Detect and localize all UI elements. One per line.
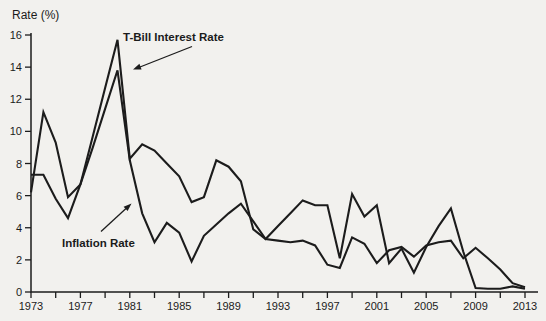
y-tick-label: 0 (16, 286, 22, 298)
x-tick-label: 1989 (216, 300, 240, 312)
tbill-annotation-label: T-Bill Interest Rate (123, 31, 224, 43)
data-series (31, 40, 525, 289)
tbill-annotation: T-Bill Interest Rate (123, 31, 224, 70)
tbill-inflation-line-chart: Rate (%) 0246810121416 19731977198119851… (0, 0, 546, 321)
y-axis-title: Rate (%) (12, 8, 59, 22)
axis-lines (31, 33, 538, 292)
t-bill-rate-line (31, 40, 525, 289)
tbill-annotation-arrowhead-icon (133, 64, 142, 70)
y-axis-tick-labels: 0246810121416 (10, 29, 22, 298)
x-tick-label: 1977 (68, 300, 92, 312)
y-tick-label: 10 (10, 125, 22, 137)
y-tick-label: 8 (16, 158, 22, 170)
y-tick-label: 6 (16, 190, 22, 202)
axes: 0246810121416 19731977198119851989199319… (10, 29, 538, 312)
inflation-rate-line (31, 70, 525, 287)
x-axis-ticks (31, 292, 525, 298)
x-tick-label: 1981 (118, 300, 142, 312)
tbill-annotation-arrow-line (140, 47, 192, 68)
x-tick-label: 2005 (414, 300, 438, 312)
x-tick-label: 2001 (365, 300, 389, 312)
y-axis-ticks (25, 35, 31, 292)
textbook-chart-page: Rate (%) 0246810121416 19731977198119851… (0, 0, 546, 321)
y-tick-label: 4 (16, 222, 22, 234)
y-tick-label: 12 (10, 93, 22, 105)
x-tick-label: 1985 (167, 300, 191, 312)
x-tick-label: 1993 (266, 300, 290, 312)
x-tick-label: 1973 (19, 300, 43, 312)
y-tick-label: 16 (10, 29, 22, 41)
y-tick-label: 14 (10, 61, 22, 73)
x-tick-label: 1997 (315, 300, 339, 312)
x-tick-label: 2013 (513, 300, 537, 312)
x-tick-label: 2009 (463, 300, 487, 312)
y-tick-label: 2 (16, 254, 22, 266)
inflation-annotation: Inflation Rate (62, 204, 135, 250)
x-axis-tick-labels: 1973197719811985198919931997200120052009… (19, 300, 537, 312)
inflation-annotation-label: Inflation Rate (62, 237, 135, 249)
inflation-annotation-arrow-line (101, 209, 126, 232)
